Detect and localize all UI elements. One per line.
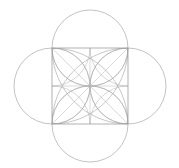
canvas-background	[0, 0, 179, 168]
geometric-figure-canvas	[0, 0, 179, 168]
construction-lines-group	[52, 48, 128, 124]
